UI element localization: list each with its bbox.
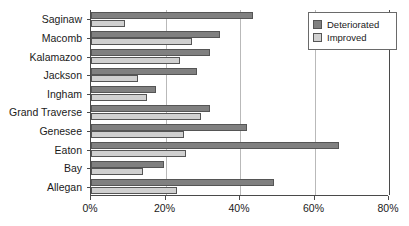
bar-deteriorated-bay bbox=[91, 161, 164, 168]
bar-deteriorated-genesee bbox=[91, 124, 247, 131]
bar-deteriorated-grand-traverse bbox=[91, 105, 210, 112]
x-tick-label-80: 80% bbox=[377, 202, 398, 214]
bar-improved-kalamazoo bbox=[91, 57, 180, 64]
y-axis-label-bay: Bay bbox=[64, 162, 82, 174]
bar-improved-ingham bbox=[91, 94, 147, 101]
bar-chart: SaginawMacombKalamazooJacksonInghamGrand… bbox=[0, 0, 409, 226]
bar-group bbox=[91, 140, 388, 159]
y-tick bbox=[87, 168, 91, 169]
y-axis-labels: SaginawMacombKalamazooJacksonInghamGrand… bbox=[0, 10, 86, 196]
bar-group bbox=[91, 84, 388, 103]
bar-improved-bay bbox=[91, 168, 143, 175]
legend-item-improved: Improved bbox=[313, 32, 392, 43]
y-tick bbox=[87, 150, 91, 151]
bar-improved-allegan bbox=[91, 187, 177, 194]
bar-improved-saginaw bbox=[91, 20, 125, 27]
y-axis-label-macomb: Macomb bbox=[42, 32, 82, 44]
bar-group bbox=[91, 177, 388, 196]
bar-group bbox=[91, 159, 388, 178]
y-tick bbox=[87, 94, 91, 95]
bar-group bbox=[91, 103, 388, 122]
x-tick-mark-0 bbox=[90, 196, 91, 200]
y-tick bbox=[87, 38, 91, 39]
bar-improved-grand-traverse bbox=[91, 113, 201, 120]
bar-deteriorated-eaton bbox=[91, 142, 339, 149]
chart-legend: DeterioratedImproved bbox=[308, 12, 397, 50]
bar-group bbox=[91, 122, 388, 141]
y-tick bbox=[87, 19, 91, 20]
y-axis-label-genesee: Genesee bbox=[39, 125, 82, 137]
y-tick bbox=[87, 187, 91, 188]
x-tick-label-40: 40% bbox=[228, 202, 249, 214]
bar-group bbox=[91, 66, 388, 85]
y-axis-label-ingham: Ingham bbox=[47, 88, 82, 100]
y-tick bbox=[87, 75, 91, 76]
y-axis-label-kalamazoo: Kalamazoo bbox=[29, 51, 82, 63]
bar-improved-eaton bbox=[91, 150, 186, 157]
x-tick-mark-80 bbox=[388, 196, 389, 200]
y-axis-label-jackson: Jackson bbox=[43, 69, 82, 81]
legend-label: Deteriorated bbox=[327, 19, 379, 30]
legend-swatch-deteriorated-icon bbox=[313, 20, 322, 29]
x-tick-label-20: 20% bbox=[154, 202, 175, 214]
bar-deteriorated-macomb bbox=[91, 31, 220, 38]
x-axis: 0%20%40%60%80% bbox=[90, 196, 388, 222]
bar-improved-genesee bbox=[91, 131, 184, 138]
x-tick-mark-60 bbox=[314, 196, 315, 200]
y-axis-label-allegan: Allegan bbox=[47, 181, 82, 193]
bar-improved-macomb bbox=[91, 38, 192, 45]
legend-label: Improved bbox=[327, 32, 367, 43]
bar-deteriorated-saginaw bbox=[91, 12, 253, 19]
x-tick-mark-40 bbox=[239, 196, 240, 200]
x-tick-mark-20 bbox=[165, 196, 166, 200]
x-tick-label-60: 60% bbox=[303, 202, 324, 214]
y-axis-label-eaton: Eaton bbox=[55, 144, 82, 156]
bar-deteriorated-kalamazoo bbox=[91, 49, 210, 56]
x-tick-label-0: 0% bbox=[82, 202, 97, 214]
y-tick bbox=[87, 112, 91, 113]
legend-swatch-improved-icon bbox=[313, 33, 322, 42]
bar-deteriorated-ingham bbox=[91, 86, 156, 93]
legend-item-deteriorated: Deteriorated bbox=[313, 19, 392, 30]
y-tick bbox=[87, 131, 91, 132]
bar-deteriorated-allegan bbox=[91, 179, 274, 186]
y-axis-label-saginaw: Saginaw bbox=[42, 13, 82, 25]
y-tick bbox=[87, 57, 91, 58]
bar-improved-jackson bbox=[91, 75, 138, 82]
y-axis-label-grand-traverse: Grand Traverse bbox=[9, 106, 82, 118]
bar-deteriorated-jackson bbox=[91, 68, 197, 75]
